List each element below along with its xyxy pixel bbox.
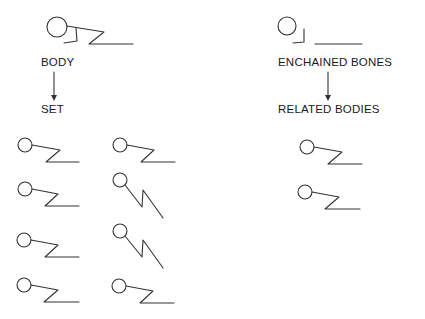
diagram-canvas (0, 0, 425, 319)
enchained-bones-figure-icon (278, 17, 362, 44)
body-figure-icon (47, 17, 133, 44)
set-figure-icon (17, 233, 79, 257)
related-body-figure-icon (300, 140, 362, 164)
set-figure-icon (18, 138, 79, 162)
related-bodies-label: RELATED BODIES (278, 103, 380, 115)
set-figure-icon (18, 182, 79, 206)
set-figure-bent-icon (113, 224, 163, 268)
enchained-bones-label: ENCHAINED BONES (278, 56, 392, 68)
body-label: BODY (41, 56, 74, 68)
related-body-figure-icon (298, 185, 360, 209)
down-arrow-icon (325, 72, 331, 101)
set-figure-icon (113, 138, 175, 162)
set-label: SET (41, 103, 64, 115)
set-figure-icon (112, 279, 174, 303)
down-arrow-icon (51, 72, 57, 101)
set-figure-icon (17, 278, 79, 302)
set-figure-bent-icon (113, 173, 163, 218)
